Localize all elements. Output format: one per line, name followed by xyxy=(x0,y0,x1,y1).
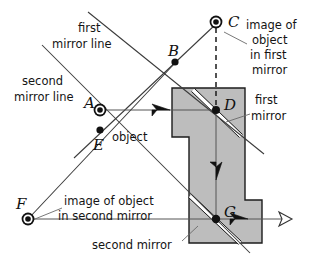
image-second-mirror-label-2: in second mirror xyxy=(58,209,152,223)
point-marker-D xyxy=(212,106,220,114)
first-mirror-line-label-2: mirror line xyxy=(52,37,112,51)
leader-image-first-mirror xyxy=(224,32,247,44)
point-label-D: D xyxy=(223,96,236,114)
first-mirror-label-1: first xyxy=(255,93,278,107)
image-first-mirror-label-2: object xyxy=(252,33,288,47)
image-first-mirror-label-3: in first xyxy=(250,48,287,62)
ray-arrow-a-to-d xyxy=(152,104,170,116)
point-marker-G xyxy=(212,215,220,223)
point-label-F: F xyxy=(15,195,27,213)
first-mirror-line-label-1: first xyxy=(78,21,101,35)
image-first-mirror-label-1: image of xyxy=(246,18,298,32)
point-label-B: B xyxy=(167,42,179,60)
object-label: object xyxy=(112,130,148,144)
point-marker-C xyxy=(210,16,223,29)
point-label-G: G xyxy=(224,203,236,221)
image-first-mirror-label-4: mirror xyxy=(252,63,287,77)
point-label-E: E xyxy=(92,136,104,154)
point-label-C: C xyxy=(228,13,240,31)
point-label-A: A xyxy=(82,94,95,112)
first-mirror-label-2: mirror xyxy=(251,109,286,123)
second-mirror-line-label-2: mirror line xyxy=(14,90,74,104)
point-marker-A xyxy=(94,104,107,117)
point-marker-E xyxy=(96,126,103,133)
second-mirror-label: second mirror xyxy=(92,238,172,252)
second-mirror-line-label-1: second xyxy=(22,74,63,88)
optics-diagram-svg: A B C D E F G first mirror line second m… xyxy=(0,0,309,266)
image-second-mirror-label-1: image of object xyxy=(64,194,154,208)
diagram-canvas: A B C D E F G first mirror line second m… xyxy=(0,0,309,266)
point-marker-F xyxy=(22,213,35,226)
